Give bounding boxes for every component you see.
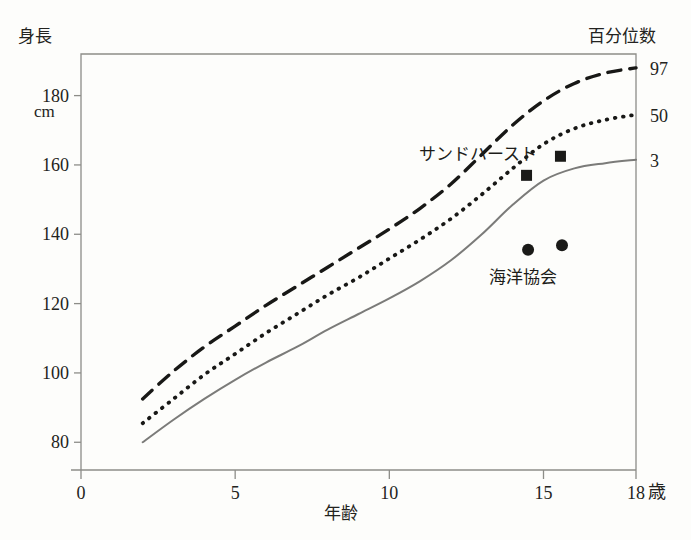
- chart-background: [0, 0, 691, 540]
- x-tick-label: 15: [535, 483, 553, 503]
- right-tick-label-p3: 3: [650, 151, 659, 171]
- series-label-sandhurst: サンドハースト: [419, 144, 537, 164]
- x-tick-label: 10: [380, 483, 398, 503]
- y-axis-unit-label: cm: [34, 102, 55, 121]
- y-tick-label: 100: [42, 363, 69, 383]
- series-label-maritime-association: 海洋協会: [489, 267, 557, 287]
- chart-canvas: 80100120140160180 05101518 97503 身長 cm 年…: [0, 0, 691, 540]
- x-tick-label: 0: [77, 483, 86, 503]
- data-marker-circle-1-0: [522, 244, 534, 256]
- x-tick-label: 18: [627, 483, 645, 503]
- y-tick-label: 140: [42, 224, 69, 244]
- x-tick-label: 5: [231, 483, 240, 503]
- growth-chart: 80100120140160180 05101518 97503 身長 cm 年…: [0, 0, 691, 540]
- data-marker-square-0-0: [521, 170, 532, 181]
- x-axis-title: 年齢: [324, 503, 358, 523]
- y-tick-label: 120: [42, 294, 69, 314]
- data-marker-circle-1-1: [556, 239, 568, 251]
- y-tick-label: 80: [51, 432, 69, 452]
- right-tick-label-p97: 97: [650, 59, 668, 79]
- data-marker-square-0-1: [555, 151, 566, 162]
- y-axis-title: 身長: [18, 26, 52, 46]
- right-axis-title: 百分位数: [588, 26, 656, 46]
- y-tick-label: 160: [42, 155, 69, 175]
- x-axis-unit-label: 歳: [648, 481, 666, 502]
- right-tick-label-p50: 50: [650, 106, 668, 126]
